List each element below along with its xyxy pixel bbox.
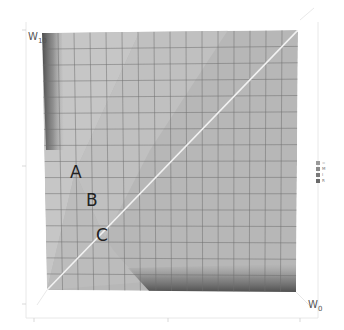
surface [42,30,298,292]
legend: = M I R [316,160,325,184]
legend-swatch [316,179,320,183]
region-label-b: B [86,190,98,210]
y-axis-label: W10 [28,31,47,45]
legend-entry: R [316,178,325,184]
region-label-c: C [96,225,108,245]
region-plot [0,0,344,330]
region-label-a: A [70,162,82,182]
x-axis-label-main: W [308,299,318,310]
legend-swatch [316,161,320,165]
x-axis-label-sub: 0 [318,305,322,313]
legend-swatch [316,167,320,171]
legend-swatch [316,173,320,177]
y-axis-label-sub: 10 [38,37,47,45]
x-axis-label: W0 [308,299,322,313]
y-axis-label-main: W [28,31,38,42]
